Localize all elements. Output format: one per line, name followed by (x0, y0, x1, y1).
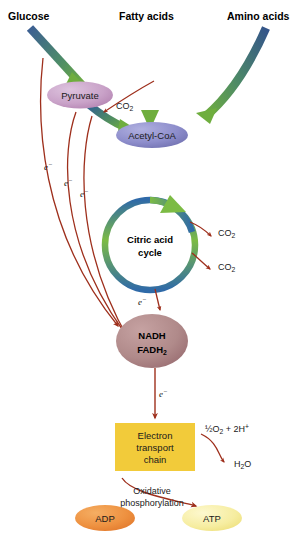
acetylcoa-label: Acetyl-CoA (128, 130, 176, 141)
nadh-label-line1: NADH (138, 330, 166, 341)
label-amino-acids: Amino acids (227, 10, 290, 22)
etc-label-line1: Electron (138, 430, 173, 441)
etc-label-line2: transport (136, 442, 174, 453)
pyruvate-label: Pyruvate (61, 90, 99, 101)
nadh-label-line2: FADH2 (137, 344, 167, 356)
label-oxygen-protons: ½O2 + 2H+ (205, 423, 249, 435)
label-fatty-acids: Fatty acids (119, 10, 174, 22)
node-atp: ATP (182, 505, 242, 531)
label-oxidative-line2: phosphorylation (120, 498, 184, 508)
node-electron-transport-chain: Electron transport chain (115, 423, 195, 471)
node-adp: ADP (75, 505, 135, 531)
label-glucose: Glucose (8, 10, 50, 22)
cellular-respiration-diagram: Glucose Fatty acids Amino acids Pyruvate… (0, 0, 296, 540)
adp-label: ADP (95, 513, 115, 524)
label-oxidative-line1: Oxidative (133, 486, 171, 496)
atp-label: ATP (203, 513, 221, 524)
node-acetyl-coa: Acetyl-CoA (116, 122, 188, 148)
cycle-label-line2: cycle (138, 247, 162, 258)
node-nadh-fadh2: NADH FADH2 (116, 314, 188, 368)
cycle-label-line1: Citric acid (127, 234, 173, 245)
etc-label-line3: chain (144, 454, 167, 465)
node-pyruvate: Pyruvate (47, 82, 113, 109)
